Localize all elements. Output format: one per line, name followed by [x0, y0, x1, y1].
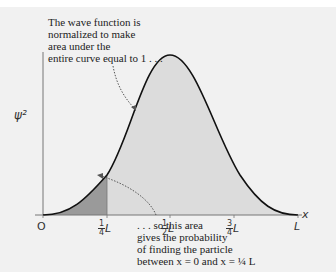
shaded-probability-region	[43, 175, 107, 215]
annotation-line: between x = 0 and x = ¼ L	[137, 255, 255, 267]
tick-label-L: L	[294, 220, 300, 233]
annotation-line: area under the	[48, 40, 163, 52]
arrowhead-shaded-area	[97, 173, 103, 179]
annotation-line: The wave function is	[48, 16, 163, 28]
tick-label-origin: O	[37, 220, 46, 233]
tick-unit: L	[233, 222, 239, 235]
tick-unit: L	[105, 222, 111, 235]
tick-label-quarter: 14L	[98, 220, 111, 237]
curve-area	[43, 55, 298, 215]
y-axis-label: ψ²	[14, 108, 27, 122]
arrow-to-total-area	[113, 66, 134, 108]
tick-label-half: 12L	[161, 220, 174, 237]
annotation-line: normalized to make	[48, 28, 163, 40]
annotation-line: entire curve equal to 1 . . .	[48, 52, 163, 64]
arrowhead-total-area	[131, 105, 136, 111]
normalization-annotation: The wave function is normalized to make …	[48, 16, 163, 64]
x-axis-label: x	[302, 208, 309, 221]
tick-unit: L	[168, 222, 174, 235]
annotation-line: of finding the particle	[137, 243, 255, 255]
tick-label-three-quarter: 34L	[226, 220, 239, 237]
